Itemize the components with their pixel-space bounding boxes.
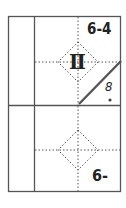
top-cell-label: 6-4 (87, 22, 111, 37)
side-mark: 8 (105, 80, 112, 93)
dot-mark (108, 98, 111, 101)
roman-two-symbol: Ⅱ (69, 52, 86, 72)
bottom-cell-label: 6- (92, 168, 108, 184)
bottom-dotted-guides (35, 106, 121, 191)
